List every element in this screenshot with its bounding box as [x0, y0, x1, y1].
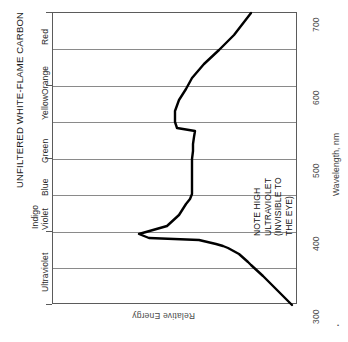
- band-label-red: Red: [40, 29, 50, 45]
- band-label-violet: Violet: [40, 208, 50, 230]
- band-label-orange: Orange: [40, 66, 50, 95]
- wavelength-tick-label-700: 700: [311, 17, 321, 32]
- wavelength-tick-label-500: 500: [311, 163, 321, 178]
- wavelength-tick-label-400: 400: [311, 236, 321, 251]
- band-label-indigo: Indigo: [30, 205, 40, 229]
- wavelength-axis-title: Wavelength, nm: [331, 133, 341, 196]
- band-label-blue: Blue: [40, 178, 50, 196]
- uv-annotation-line-1: NOTE HIGH: [252, 142, 263, 236]
- uv-annotation-line-3: (INVISIBLE TO: [273, 142, 284, 236]
- page-mark: •: [337, 322, 339, 328]
- uv-annotation-line-2: ULTRAVIOLET: [263, 142, 274, 236]
- band-label-green: Green: [40, 139, 50, 163]
- uv-annotation-line-4: THE EYE): [284, 142, 295, 236]
- wavelength-tick-label-300: 300: [311, 309, 321, 324]
- uv-annotation: NOTE HIGH ULTRAVIOLET (INVISIBLE TO THE …: [252, 142, 294, 236]
- wavelength-tick-label-600: 600: [311, 90, 321, 105]
- tick-300: [46, 304, 52, 305]
- band-label-ultraviolet: Ultraviolet: [40, 253, 50, 292]
- energy-axis-title: Relative Energy: [132, 311, 195, 321]
- chart-title: UNFILTERED WHITE-FLAME CARBON: [14, 12, 25, 188]
- band-label-yellow: Yellow: [40, 95, 50, 120]
- chart-page: UNFILTERED WHITE-FLAME CARBON Ultraviole…: [0, 0, 348, 342]
